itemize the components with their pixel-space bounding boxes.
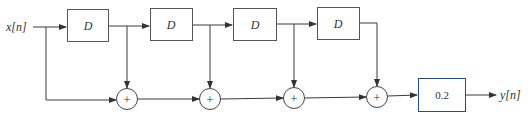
wire-s4-to-gain bbox=[388, 95, 418, 96]
delay-block-1: D bbox=[68, 10, 109, 42]
fir-filter-block-diagram: x[n] D D D D bbox=[0, 0, 528, 117]
input-label: x[n] bbox=[5, 20, 27, 34]
plus-icon: + bbox=[290, 91, 297, 106]
delay-label: D bbox=[166, 18, 176, 32]
delay-label: D bbox=[83, 19, 93, 33]
adder-1: + bbox=[117, 89, 138, 110]
gain-label: 0.2 bbox=[435, 89, 449, 101]
delay-label: D bbox=[250, 18, 260, 32]
gain-block: 0.2 bbox=[419, 79, 466, 112]
adder-2: + bbox=[200, 89, 221, 110]
adder-3: + bbox=[284, 88, 305, 109]
plus-icon: + bbox=[123, 92, 130, 107]
diagram-canvas: x[n] D D D D bbox=[0, 0, 528, 117]
plus-icon: + bbox=[206, 92, 213, 107]
output-label: y[n] bbox=[499, 88, 521, 102]
delay-block-3: D bbox=[234, 9, 277, 41]
plus-icon: + bbox=[373, 90, 380, 105]
wire-s2-to-s3 bbox=[221, 98, 284, 99]
wire-s3-to-s4 bbox=[305, 97, 367, 98]
delay-label: D bbox=[333, 17, 343, 31]
delay-block-2: D bbox=[151, 9, 193, 41]
wire-d4-to-s4 bbox=[360, 23, 377, 86]
adder-4: + bbox=[367, 87, 388, 108]
delay-block-4: D bbox=[318, 8, 360, 40]
